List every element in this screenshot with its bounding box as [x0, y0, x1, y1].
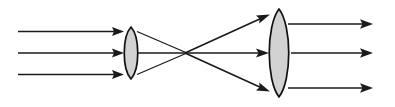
ray-top-in: [18, 27, 124, 36]
ray-bottom-diverging: [185, 53, 270, 92]
first-converging-lens: [124, 27, 138, 79]
second-converging-lens: [269, 9, 289, 97]
ray-top-out: [288, 19, 373, 29]
ray-diagram-canvas: [0, 0, 395, 107]
incoming-ray-group: [18, 27, 124, 79]
ray-bottom-in: [18, 70, 124, 79]
ray-top-diverging: [185, 15, 270, 54]
ray-top-converging: [137, 32, 187, 54]
ray-diagram-figure: Two-lens converging ray diagram Lens 1 L…: [0, 0, 395, 107]
converging-ray-group: [137, 32, 187, 75]
ray-middle-out: [291, 48, 373, 58]
diverging-ray-group: [185, 15, 270, 92]
outgoing-ray-group: [288, 19, 373, 93]
ray-bottom-converging: [137, 53, 187, 75]
ray-middle-diverging: [185, 49, 269, 58]
ray-bottom-out: [288, 83, 373, 93]
ray-middle-in: [18, 49, 124, 58]
